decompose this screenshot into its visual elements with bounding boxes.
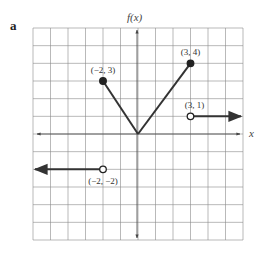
point-label: (−2, 3) (91, 65, 116, 75)
point-label: (3, 4) (181, 47, 201, 57)
x-axis-label: x (248, 127, 254, 139)
open-point (100, 166, 107, 173)
closed-point (187, 60, 194, 67)
point-label: (−2, −2) (88, 176, 118, 186)
panel-label: a (10, 18, 17, 33)
open-point (187, 113, 194, 120)
point-label: (3, 1) (185, 100, 205, 110)
closed-point (100, 78, 107, 85)
y-axis-label: f(x) (127, 11, 143, 24)
function-graph: a f(x) x (−2, 3)(3, 4)(3, 1)(−2, −2) (0, 0, 267, 257)
